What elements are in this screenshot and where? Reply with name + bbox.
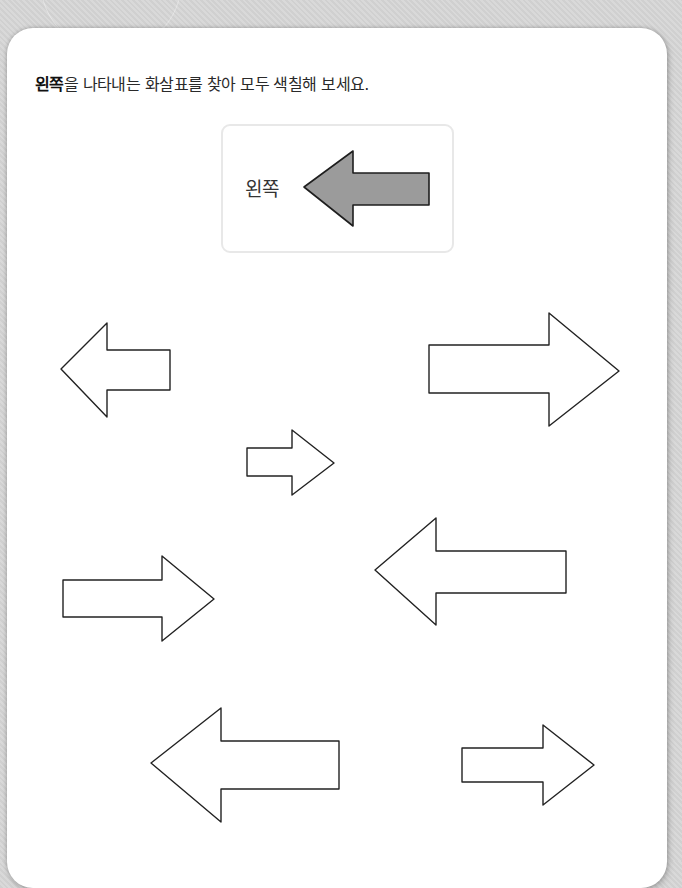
arrow-1-left-icon[interactable] [61,323,170,417]
arrow-6-left-icon[interactable] [151,708,339,822]
arrow-4-right-icon[interactable] [63,556,214,641]
arrow-3-right-icon[interactable] [429,313,619,426]
arrow-7-right-icon[interactable] [462,725,594,805]
example-left-arrow-icon [304,151,429,226]
arrow-5-left-icon[interactable] [375,518,566,625]
arrow-2-right-icon[interactable] [247,430,334,495]
